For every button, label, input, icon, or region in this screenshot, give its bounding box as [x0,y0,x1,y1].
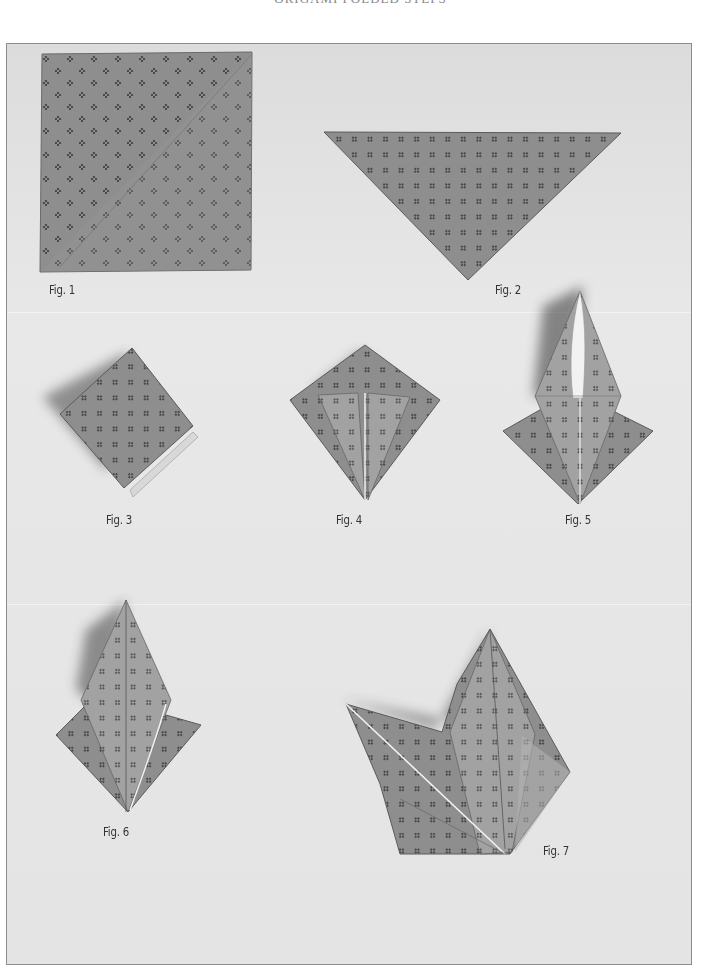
figure-3-square-base [38,342,208,502]
figure-7-caption: Fig. 7 [543,844,569,858]
figure-2-triangle [324,130,624,285]
figure-1-square [40,52,255,274]
figure-7-crane-fold [340,624,580,859]
running-head: ORIGAMI FOLDED STEPS [0,0,721,7]
figure-5-caption: Fig. 5 [565,513,591,527]
figure-4-kite-fold [290,345,450,505]
figure-5-petal-fold [503,286,663,506]
figure-3-caption: Fig. 3 [106,513,132,527]
figure-6-caption: Fig. 6 [103,825,129,839]
figure-4-caption: Fig. 4 [336,513,362,527]
figure-6-bird-base [56,600,206,815]
figure-1-caption: Fig. 1 [49,283,75,297]
